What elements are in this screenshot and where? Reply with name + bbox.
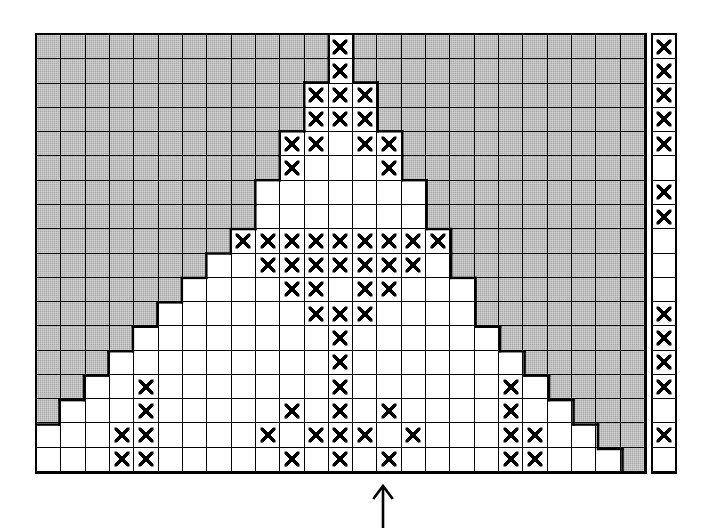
grid-cell[interactable]	[572, 448, 596, 472]
grid-cell[interactable]	[475, 84, 499, 108]
grid-cell[interactable]	[377, 423, 401, 447]
grid-cell[interactable]	[183, 399, 207, 423]
grid-cell[interactable]	[37, 205, 61, 229]
grid-cell[interactable]	[159, 35, 183, 59]
grid-cell[interactable]	[426, 229, 450, 253]
grid-cell[interactable]	[499, 302, 523, 326]
grid-cell[interactable]	[232, 59, 256, 83]
grid-cell[interactable]	[232, 229, 256, 253]
grid-cell[interactable]	[402, 84, 426, 108]
grid-cell[interactable]	[450, 35, 474, 59]
grid-cell[interactable]	[475, 35, 499, 59]
grid-cell[interactable]	[426, 448, 450, 472]
grid-cell[interactable]	[523, 302, 547, 326]
grid-cell[interactable]	[37, 59, 61, 83]
grid-cell[interactable]	[329, 254, 353, 278]
grid-cell[interactable]	[450, 423, 474, 447]
grid-cell[interactable]	[305, 326, 329, 350]
grid-cell[interactable]	[621, 108, 645, 132]
grid-cell[interactable]	[110, 423, 134, 447]
grid-cell[interactable]	[377, 254, 401, 278]
grid-cell[interactable]	[305, 181, 329, 205]
grid-cell[interactable]	[134, 448, 158, 472]
grid-cell[interactable]	[256, 84, 280, 108]
grid-cell[interactable]	[426, 132, 450, 156]
grid-cell[interactable]	[207, 399, 231, 423]
grid-cell[interactable]	[280, 108, 304, 132]
grid-cell[interactable]	[305, 254, 329, 278]
grid-cell[interactable]	[159, 108, 183, 132]
grid-cell[interactable]	[572, 108, 596, 132]
key-column-cell[interactable]	[653, 399, 675, 423]
grid-cell[interactable]	[183, 423, 207, 447]
grid-cell[interactable]	[183, 448, 207, 472]
grid-cell[interactable]	[596, 375, 620, 399]
grid-cell[interactable]	[256, 229, 280, 253]
grid-cell[interactable]	[134, 205, 158, 229]
key-column-cell[interactable]	[653, 375, 675, 399]
grid-cell[interactable]	[159, 326, 183, 350]
grid-cell[interactable]	[280, 375, 304, 399]
grid-cell[interactable]	[596, 326, 620, 350]
grid-cell[interactable]	[256, 254, 280, 278]
grid-cell[interactable]	[499, 423, 523, 447]
grid-cell[interactable]	[329, 84, 353, 108]
grid-cell[interactable]	[329, 205, 353, 229]
grid-cell[interactable]	[110, 59, 134, 83]
grid-cell[interactable]	[329, 108, 353, 132]
grid-cell[interactable]	[183, 108, 207, 132]
grid-cell[interactable]	[37, 375, 61, 399]
grid-cell[interactable]	[207, 108, 231, 132]
grid-cell[interactable]	[207, 132, 231, 156]
grid-cell[interactable]	[37, 156, 61, 180]
grid-cell[interactable]	[572, 326, 596, 350]
grid-cell[interactable]	[256, 108, 280, 132]
grid-cell[interactable]	[159, 375, 183, 399]
grid-cell[interactable]	[596, 205, 620, 229]
grid-cell[interactable]	[86, 132, 110, 156]
grid-cell[interactable]	[621, 205, 645, 229]
grid-cell[interactable]	[159, 302, 183, 326]
grid-cell[interactable]	[159, 399, 183, 423]
grid-cell[interactable]	[256, 156, 280, 180]
grid-cell[interactable]	[426, 423, 450, 447]
grid-cell[interactable]	[207, 448, 231, 472]
grid-cell[interactable]	[402, 448, 426, 472]
grid-cell[interactable]	[475, 59, 499, 83]
grid-cell[interactable]	[329, 448, 353, 472]
grid-cell[interactable]	[499, 351, 523, 375]
grid-cell[interactable]	[450, 448, 474, 472]
grid-cell[interactable]	[232, 423, 256, 447]
grid-cell[interactable]	[37, 448, 61, 472]
grid-cell[interactable]	[402, 132, 426, 156]
grid-cell[interactable]	[329, 302, 353, 326]
grid-cell[interactable]	[499, 205, 523, 229]
grid-cell[interactable]	[329, 229, 353, 253]
grid-cell[interactable]	[548, 132, 572, 156]
grid-cell[interactable]	[280, 35, 304, 59]
grid-cell[interactable]	[280, 132, 304, 156]
grid-cell[interactable]	[377, 84, 401, 108]
grid-cell[interactable]	[548, 375, 572, 399]
grid-cell[interactable]	[353, 205, 377, 229]
grid-cell[interactable]	[450, 399, 474, 423]
grid-cell[interactable]	[134, 108, 158, 132]
grid-cell[interactable]	[232, 326, 256, 350]
grid-cell[interactable]	[207, 351, 231, 375]
grid-cell[interactable]	[37, 399, 61, 423]
grid-cell[interactable]	[86, 181, 110, 205]
grid-cell[interactable]	[621, 254, 645, 278]
grid-cell[interactable]	[134, 156, 158, 180]
grid-cell[interactable]	[159, 132, 183, 156]
grid-cell[interactable]	[305, 35, 329, 59]
grid-cell[interactable]	[523, 423, 547, 447]
grid-cell[interactable]	[159, 448, 183, 472]
grid-cell[interactable]	[61, 181, 85, 205]
key-column-cell[interactable]	[653, 423, 675, 447]
grid-cell[interactable]	[523, 132, 547, 156]
grid-cell[interactable]	[134, 84, 158, 108]
grid-cell[interactable]	[475, 229, 499, 253]
grid-cell[interactable]	[523, 351, 547, 375]
grid-cell[interactable]	[61, 108, 85, 132]
grid-cell[interactable]	[86, 302, 110, 326]
